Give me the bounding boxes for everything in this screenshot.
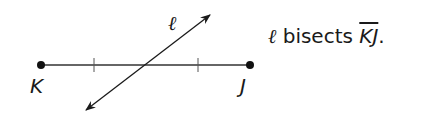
point-k	[37, 61, 45, 69]
point-j-label: J	[240, 76, 246, 96]
line-ell	[86, 15, 210, 110]
line-ell-label: ℓ	[168, 13, 176, 33]
bisector-diagram: K J ℓ ℓ bisects KJ.	[0, 0, 423, 115]
statement-verb: bisects	[276, 24, 359, 48]
statement-period: .	[378, 24, 384, 48]
point-k-label: K	[30, 76, 43, 96]
statement-segment: KJ	[359, 24, 378, 48]
bisect-statement: ℓ bisects KJ.	[268, 24, 385, 48]
diagram-svg	[0, 0, 423, 115]
point-j	[246, 61, 254, 69]
